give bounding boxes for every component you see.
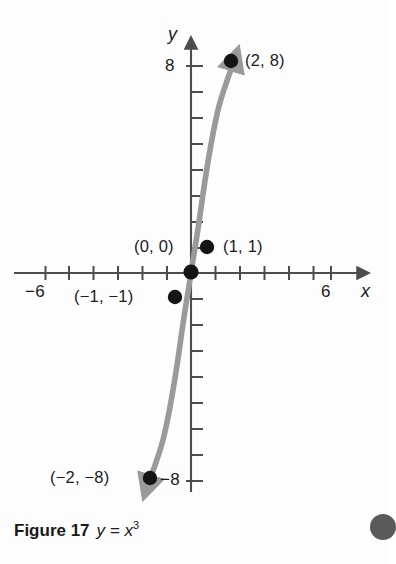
point-minus2-minus8 bbox=[143, 471, 157, 485]
point-label-2-8: (2, 8) bbox=[245, 51, 285, 70]
y-tick-label-minus8: −8 bbox=[160, 470, 180, 490]
figure-caption-equation: y = x3 bbox=[97, 521, 140, 540]
point-label-minus1-minus1: (−1, −1) bbox=[74, 287, 133, 306]
figure-caption: Figure 17y = x3 bbox=[14, 519, 139, 541]
x-axis-label: x bbox=[361, 281, 370, 302]
page-corner-dot bbox=[370, 514, 396, 540]
point-label-1-1: (1, 1) bbox=[223, 237, 263, 256]
point-label-0-0: (0, 0) bbox=[134, 237, 174, 256]
figure-caption-exponent: 3 bbox=[133, 519, 139, 531]
x-tick-label-minus6: −6 bbox=[25, 282, 45, 302]
x-tick-label-6: 6 bbox=[321, 282, 331, 302]
point-label-minus2-minus8: (−2, −8) bbox=[50, 468, 109, 487]
figure-caption-label: Figure 17 bbox=[14, 521, 90, 540]
y-tick-label-8: 8 bbox=[165, 56, 175, 76]
point-2-8 bbox=[224, 54, 238, 68]
figure-caption-equation-base: y = x bbox=[97, 521, 133, 540]
y-axis-label: y bbox=[168, 24, 177, 45]
point-minus1-minus1 bbox=[168, 290, 182, 304]
point-0-0 bbox=[183, 264, 198, 279]
point-1-1 bbox=[200, 240, 214, 254]
